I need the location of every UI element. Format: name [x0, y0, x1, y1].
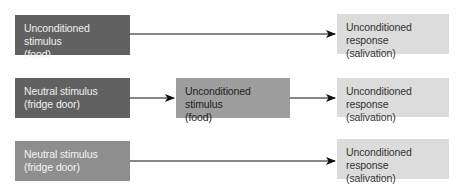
arrows-layer: [0, 0, 461, 190]
